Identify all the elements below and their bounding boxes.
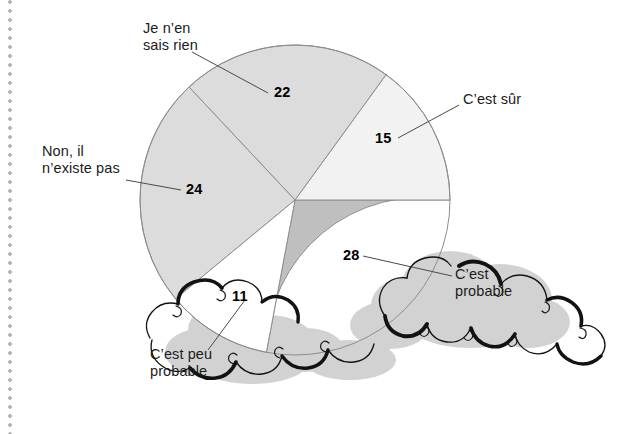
slice-value-cest-probable: 28 [343,247,360,263]
slice-value-non-il-nexiste-pas: 24 [186,181,203,197]
slice-label-cest-sur: C’est sûr [463,91,521,108]
figure-canvas: Je n’en sais rien C’est sûr C’est probab… [0,0,632,434]
slice-value-je-nen-sais-rien: 22 [274,84,291,100]
slice-value-cest-peu-probable: 11 [232,288,248,304]
slice-label-cest-probable: C’est probable [455,266,512,300]
slice-value-cest-sur: 15 [375,130,392,146]
pie-chart-graphic [0,0,632,434]
slice-label-je-nen-sais-rien: Je n’en sais rien [143,20,198,54]
slice-label-cest-peu-probable: C’est peu probable [150,346,212,380]
slice-label-non-il-nexiste-pas: Non, il n’existe pas [42,143,120,177]
